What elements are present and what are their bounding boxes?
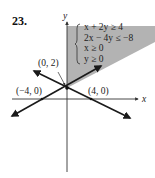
point-label-neg4-0: (−4, 0) [16,87,42,97]
inequality-3: x ≥ 0 [84,43,133,54]
inequality-system: x + 2y ≥ 4 2x − 4y ≤ −8 x ≥ 0 y ≥ 0 [84,22,133,64]
inequality-2: 2x − 4y ≤ −8 [84,33,133,44]
y-axis-label: y [63,12,67,22]
inequality-4: y ≥ 0 [84,54,133,65]
x-axis-label: x [142,95,146,105]
point-0-2 [65,86,69,90]
inequality-1: x + 2y ≥ 4 [84,22,133,33]
point-neg4-0 [41,98,44,101]
point-4-0 [90,98,93,101]
point-label-0-2: (0, 2) [38,59,59,69]
point-label-4-0: (4, 0) [88,87,109,97]
